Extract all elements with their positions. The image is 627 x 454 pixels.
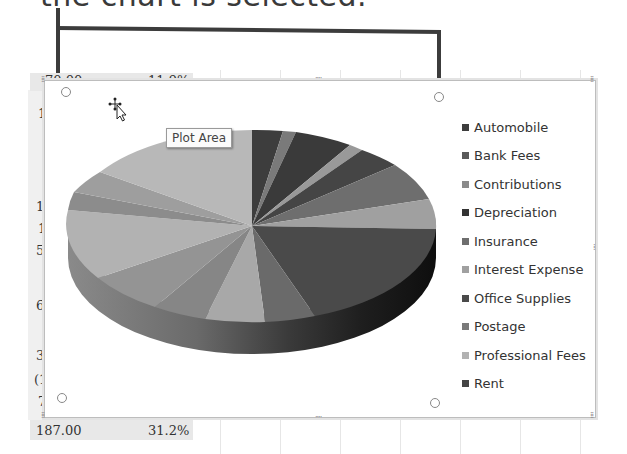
legend-swatch — [462, 352, 469, 359]
legend-swatch — [462, 152, 469, 159]
legend-item-contributions[interactable]: Contributions — [462, 170, 586, 199]
legend-swatch — [462, 209, 469, 216]
legend-swatch — [462, 380, 469, 387]
legend-item-automobile[interactable]: Automobile — [462, 113, 586, 142]
legend-swatch — [462, 124, 469, 131]
move-cursor-icon — [108, 97, 130, 123]
legend-swatch — [462, 323, 469, 330]
legend-item-bank-fees[interactable]: Bank Fees — [462, 142, 586, 171]
plot-area-tooltip: Plot Area — [166, 128, 232, 148]
legend-label: Rent — [474, 376, 504, 391]
legend-item-interest-expense[interactable]: Interest Expense — [462, 256, 586, 285]
legend-label: Interest Expense — [474, 262, 583, 277]
legend-swatch — [462, 238, 469, 245]
legend-label: Postage — [474, 319, 525, 334]
legend-label: Depreciation — [474, 205, 557, 220]
legend-item-rent[interactable]: Rent — [462, 370, 586, 399]
legend-item-depreciation[interactable]: Depreciation — [462, 199, 586, 228]
legend-label: Automobile — [474, 120, 548, 135]
legend-label: Bank Fees — [474, 148, 540, 163]
chart-legend[interactable]: Automobile Bank Fees Contributions Depre… — [462, 113, 586, 398]
legend-item-office-supplies[interactable]: Office Supplies — [462, 284, 586, 313]
legend-swatch — [462, 295, 469, 302]
legend-swatch — [462, 266, 469, 273]
legend-item-insurance[interactable]: Insurance — [462, 227, 586, 256]
legend-label: Contributions — [474, 177, 562, 192]
legend-label: Insurance — [474, 234, 538, 249]
legend-label: Office Supplies — [474, 291, 571, 306]
legend-label: Professional Fees — [474, 348, 586, 363]
legend-swatch — [462, 181, 469, 188]
legend-item-postage[interactable]: Postage — [462, 313, 586, 342]
legend-item-professional-fees[interactable]: Professional Fees — [462, 341, 586, 370]
